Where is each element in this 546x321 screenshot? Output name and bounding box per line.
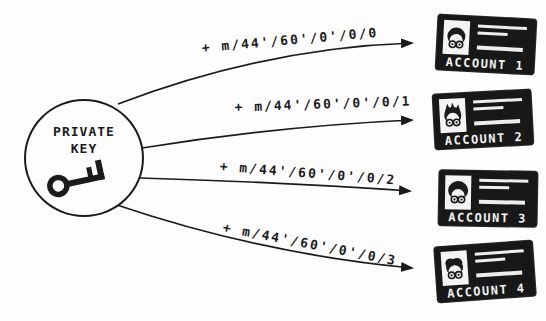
text-line-bar	[475, 249, 524, 255]
avatar-photo	[439, 98, 467, 133]
text-line-bar	[473, 98, 522, 104]
person-with-glasses-icon	[439, 98, 467, 133]
text-line-bar	[476, 270, 522, 277]
text-line-bar	[473, 106, 503, 111]
text-line-bar	[477, 46, 523, 52]
text-line-bar	[479, 186, 509, 190]
avatar-photo	[441, 250, 469, 286]
hd-wallet-derivation-diagram: PRIVATE KEY + m/44'/60'/0'/0/0 + m/44'/6…	[0, 0, 546, 321]
private-key-label-line2: KEY	[26, 140, 142, 157]
text-line-bar	[479, 200, 525, 205]
private-key-label: PRIVATE KEY	[26, 123, 142, 157]
text-line-bar	[475, 258, 505, 263]
private-key-label-line1: PRIVATE	[26, 123, 142, 140]
account-card-3: ACCOUNT 3	[439, 170, 538, 227]
account-card-1: ACCOUNT 1	[436, 14, 537, 74]
person-with-glasses-icon	[445, 175, 472, 209]
avatar-photo	[445, 175, 472, 209]
text-line-bar	[479, 179, 528, 183]
text-line-bar	[478, 32, 508, 37]
account-card-2: ACCOUNT 2	[433, 89, 534, 149]
card-text-lines	[477, 24, 530, 53]
person-with-glasses-icon	[441, 250, 469, 286]
key-icon	[41, 152, 121, 203]
card-text-lines	[479, 178, 531, 205]
person-with-glasses-icon	[442, 20, 470, 55]
account-card-4: ACCOUNT 4	[434, 241, 536, 303]
derivation-arrow-2	[142, 120, 412, 148]
avatar-photo	[442, 20, 470, 55]
text-line-bar	[478, 25, 527, 31]
account-label: ACCOUNT 3	[439, 210, 537, 226]
card-text-lines	[475, 248, 529, 278]
card-text-lines	[473, 97, 526, 126]
text-line-bar	[474, 119, 520, 125]
private-key-node: PRIVATE KEY	[24, 99, 144, 217]
